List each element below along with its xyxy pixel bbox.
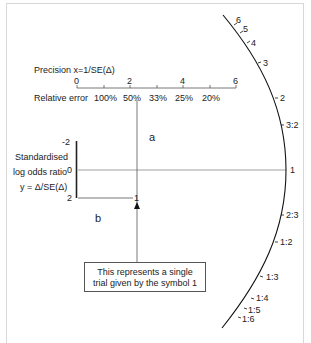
y-axis-label-line1: Standardised	[15, 152, 68, 162]
relative-error-label: Relative error	[34, 93, 88, 103]
callout-box: This represents a single trial given by …	[84, 262, 206, 292]
arc-label-6: 6	[236, 15, 241, 25]
region-label-b: b	[95, 213, 101, 223]
arc-label-4: 4	[251, 38, 256, 48]
precision-axis-title: Precision x=1/SE(Δ)	[34, 65, 115, 75]
arc-label-2-3: 2:3	[286, 210, 299, 220]
arc-label-1-6: 1:6	[242, 314, 255, 324]
precision-tick-4: 4	[180, 76, 185, 86]
arc-label-1-4: 1:4	[256, 293, 269, 303]
y-axis-label-line3: y = Δ/SE(Δ)	[20, 182, 67, 192]
y-axis-label-line2: log odds ratio	[13, 167, 67, 177]
arc-label-1-2: 1:2	[280, 237, 293, 247]
y-tick-0: 0	[67, 165, 72, 175]
relative-error-33: 33%	[149, 93, 167, 103]
trial-point-symbol: 1	[134, 193, 139, 203]
relative-error-20: 20%	[202, 93, 220, 103]
precision-tick-2: 2	[127, 76, 132, 86]
precision-tick-0: 0	[74, 76, 79, 86]
callout-line1: This represents a single	[85, 267, 205, 278]
arc-label-3: 3	[263, 58, 268, 68]
arc-label-3-2: 3:2	[286, 120, 299, 130]
callout-line2: trial given by the symbol 1	[85, 278, 205, 289]
arc-label-1-3: 1:3	[266, 272, 279, 282]
arc-label-5: 5	[243, 24, 248, 34]
precision-tick-6: 6	[233, 76, 238, 86]
relative-error-25: 25%	[175, 93, 193, 103]
region-label-a: a	[149, 132, 155, 142]
relative-error-50: 50%	[123, 93, 141, 103]
arc-label-1: 1	[290, 165, 295, 175]
arc-label-2: 2	[280, 93, 285, 103]
y-tick-neg2: -2	[62, 137, 70, 147]
y-tick-2: 2	[67, 193, 72, 203]
relative-error-100: 100%	[94, 93, 117, 103]
